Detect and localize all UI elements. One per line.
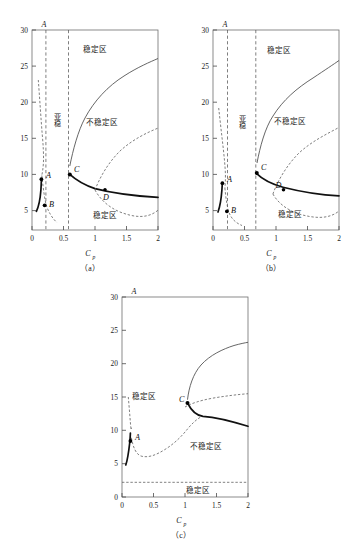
point-C-label: C <box>261 163 267 172</box>
zone-label-metastable: 亚稳 <box>238 115 247 130</box>
y-tick-label: 5 <box>114 459 118 468</box>
panel-b-plot-area: 30 25 20 15 10 5 0 0.5 1 1.5 2 A C p （b） <box>202 20 342 273</box>
zone-label-stable-left: 稳定区 <box>132 391 156 401</box>
curve-upper-stable-boundary <box>70 59 158 167</box>
y-tick-label: 30 <box>111 293 119 302</box>
y-tick-label: 20 <box>202 98 210 107</box>
y-tick-label: 0 <box>114 493 118 502</box>
y-tick-label: 25 <box>111 326 119 335</box>
curve-dashed-left-upper <box>38 80 43 176</box>
point-C-label: C <box>179 395 185 404</box>
zone-label-stable-top: 稳定区 <box>267 45 291 55</box>
point-A-label: A <box>45 171 52 180</box>
x-axis-ticks-c <box>122 493 248 497</box>
curve-bold-left-branch <box>218 183 222 212</box>
zone-label-stable-bottom: 稳定区 <box>93 210 117 220</box>
curve-dashed-mid-rising <box>273 127 339 194</box>
x-axis-title-sub: p <box>92 254 96 260</box>
x-tick-label: 0.5 <box>149 501 159 510</box>
y-tick-label: 15 <box>202 134 210 143</box>
curve-dashed-left-upper <box>128 397 131 430</box>
panel-caption: （a） <box>80 264 99 273</box>
x-tick-label: 0 <box>30 234 34 243</box>
y-tick-label: 15 <box>111 393 119 402</box>
point-B-label: B <box>231 206 236 215</box>
panel-c: 30 25 20 15 10 5 0 0 0.5 1 1.5 2 A C p （… <box>82 277 279 554</box>
zone-label-metastable: 亚稳 <box>53 113 62 128</box>
point-D-label: D <box>102 193 109 202</box>
curve-bold-left-branch <box>36 179 41 211</box>
point-A-marker <box>129 439 133 443</box>
point-C-label: C <box>74 165 80 174</box>
y-axis-ticks-c <box>122 297 126 497</box>
y-tick-label: 25 <box>21 62 29 71</box>
panel-c-plot-area: 30 25 20 15 10 5 0 0 0.5 1 1.5 2 A C p （… <box>111 287 251 540</box>
x-tick-label: 1 <box>93 234 97 243</box>
zone-label-stable-top: 稳定区 <box>83 44 107 54</box>
x-axis-title: C <box>266 249 272 258</box>
x-tick-label: 2 <box>246 501 250 510</box>
panel-a-plot-area: 30 25 20 15 10 5 0 0.5 1 1.5 2 A C p （a） <box>21 20 161 273</box>
curve-dashed-mid-rising <box>95 128 158 190</box>
x-axis-title: C <box>85 249 91 258</box>
zone-label-unstable: 不稳定区 <box>274 116 306 126</box>
zone-label-stable-bottom: 稳定区 <box>186 485 210 495</box>
curve-lower-bold-branch <box>256 173 339 196</box>
curve-dashed-left-lower <box>42 176 57 223</box>
curve-lower-bold-branch <box>188 403 249 426</box>
y-axis-title: A <box>222 20 228 29</box>
curve-upper-stable-boundary <box>257 61 339 164</box>
y-axis-ticks-a <box>32 30 36 211</box>
x-tick-label: 0 <box>211 234 215 243</box>
x-tick-label: 2 <box>156 234 160 243</box>
y-axis-title: A <box>41 20 47 29</box>
x-tick-label: 0.5 <box>59 234 69 243</box>
point-A-marker <box>40 177 44 181</box>
point-C-marker <box>186 401 190 405</box>
x-tick-label: 1 <box>183 501 187 510</box>
point-D-marker <box>282 188 286 192</box>
plot-frame-b <box>213 30 339 230</box>
x-axis-title: C <box>176 516 182 525</box>
panel-a: 30 25 20 15 10 5 0 0.5 1 1.5 2 A C p （a） <box>0 0 180 277</box>
x-axis-ticks-a <box>32 226 158 230</box>
panel-caption: （b） <box>261 264 281 273</box>
x-tick-label: 1 <box>274 234 278 243</box>
panel-caption: （c） <box>171 531 190 540</box>
y-tick-label: 10 <box>21 170 29 179</box>
y-tick-label: 10 <box>111 426 119 435</box>
point-A-label: A <box>226 175 233 184</box>
x-tick-label: 0 <box>120 501 124 510</box>
point-A-label: A <box>134 433 141 442</box>
x-axis-title-sub: p <box>183 521 187 527</box>
curve-bold-left-branch <box>126 433 131 465</box>
point-D-marker <box>103 188 106 191</box>
y-tick-label: 20 <box>21 98 29 107</box>
y-tick-label: 5 <box>205 206 209 215</box>
point-B-label: B <box>49 200 54 209</box>
point-D-label: D <box>275 181 282 190</box>
y-tick-label: 25 <box>202 62 210 71</box>
point-C-marker <box>255 171 259 175</box>
zone-label-unstable: 不稳定区 <box>190 441 222 451</box>
panel-c-svg: 30 25 20 15 10 5 0 0 0.5 1 1.5 2 A C p （… <box>82 277 279 554</box>
x-tick-label: 1.5 <box>212 501 222 510</box>
y-axis-title: A <box>131 287 137 296</box>
point-C-marker <box>68 172 72 176</box>
y-tick-label: 20 <box>111 359 119 368</box>
y-tick-label: 30 <box>202 26 210 35</box>
y-tick-label: 10 <box>202 170 210 179</box>
x-tick-label: 2 <box>337 234 341 243</box>
panel-b-svg: 30 25 20 15 10 5 0 0.5 1 1.5 2 A C p （b） <box>180 0 361 277</box>
y-axis-ticks-b <box>213 30 217 211</box>
x-axis-title-sub: p <box>273 254 277 260</box>
zone-label-stable-bottom: 稳定区 <box>278 209 302 219</box>
curve-lower-bold-branch <box>70 174 158 197</box>
curve-dashed-left-upper <box>219 108 226 188</box>
point-B-marker <box>225 209 229 213</box>
curve-dashed-upper-right <box>185 394 248 407</box>
panel-b: 30 25 20 15 10 5 0 0.5 1 1.5 2 A C p （b） <box>180 0 361 277</box>
curve-upper-stable-boundary <box>188 342 249 399</box>
x-tick-label: 1.5 <box>122 234 132 243</box>
y-tick-label: 15 <box>21 134 29 143</box>
